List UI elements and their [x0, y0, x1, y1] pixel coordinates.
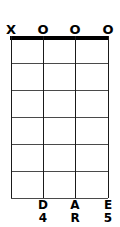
- string-marker-open-2[interactable]: O: [35, 22, 51, 37]
- string-line-4: [108, 36, 109, 198]
- string-marker-row: X O O O: [0, 22, 120, 37]
- string-line-3: [75, 36, 76, 198]
- string-marker-muted-1[interactable]: X: [3, 22, 19, 37]
- string-octave-3: R: [64, 212, 86, 225]
- fret-line-3: [11, 117, 108, 118]
- fret-line-1: [11, 63, 108, 64]
- string-line-2: [43, 36, 44, 198]
- string-label-4: E 5: [97, 199, 119, 225]
- string-label-3: A R: [64, 199, 86, 225]
- string-label-row: D 4 A R E 5: [0, 199, 120, 227]
- string-marker-open-4[interactable]: O: [100, 22, 116, 37]
- fret-line-2: [11, 90, 108, 91]
- string-label-2: D 4: [32, 199, 54, 225]
- string-line-1: [11, 36, 12, 198]
- chord-diagram: X O O O D 4 A R E 5: [0, 0, 120, 227]
- fretboard[interactable]: [11, 36, 108, 198]
- string-marker-open-3[interactable]: O: [67, 22, 83, 37]
- fret-line-4: [11, 144, 108, 145]
- string-octave-2: 4: [32, 212, 54, 225]
- string-octave-4: 5: [97, 212, 119, 225]
- nut-bar: [10, 36, 109, 40]
- fret-line-5: [11, 171, 108, 172]
